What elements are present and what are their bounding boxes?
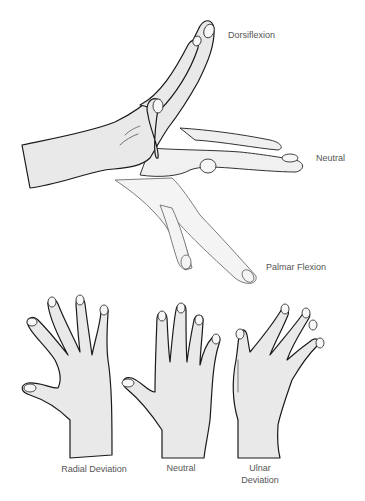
palmar-flexion-hand [115,178,256,285]
label-neutral-top: Neutral [316,152,345,164]
label-radial-deviation: Radial Deviation [61,463,127,475]
label-dorsiflexion: Dorsiflexion [228,29,275,41]
ulnar-deviation-hand [233,304,324,458]
radial-deviation-hand [22,295,112,458]
label-neutral-bottom: Neutral [166,462,195,474]
neutral-deviation-hand [122,303,220,458]
neutral-hand [140,128,303,176]
label-ulnar-deviation-line2: Deviation [241,474,279,486]
label-palmar-flexion: Palmar Flexion [266,261,326,273]
wrist-motion-illustration [0,0,365,501]
label-ulnar-deviation-line1: Ulnar [249,462,271,474]
